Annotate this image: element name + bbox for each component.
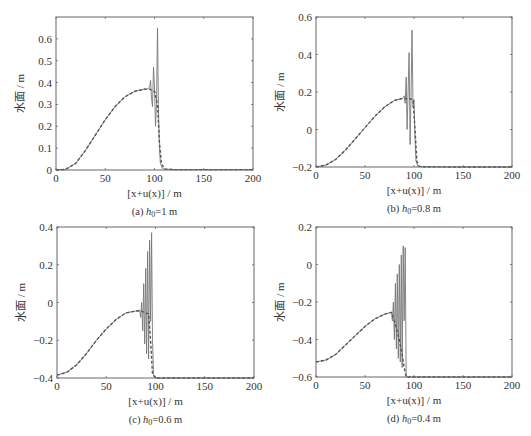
y-tick-label: −0.2: [292, 296, 312, 308]
y-tick-label: 0: [48, 297, 54, 309]
panel-caption: (c) h0=0.6 m: [129, 414, 182, 427]
y-tick-label: −0.2: [33, 334, 53, 346]
x-axis-title: [x+u(x)] / m: [128, 395, 183, 408]
y-tick-label: 0.3: [38, 98, 52, 110]
plot-frame: [316, 17, 512, 167]
chart-panel-c: 050100150200−0.4−0.200.20.4水面 / m[x+u(x)…: [15, 221, 263, 427]
y-tick-label: 0.1: [38, 142, 52, 154]
x-tick-label: 100: [147, 380, 164, 392]
chart-panel-d: 050100150200−0.6−0.4−0.200.2水面 / m[x+u(x…: [274, 221, 521, 426]
solid-series-line: [57, 233, 254, 378]
y-tick-label: 0: [47, 164, 53, 176]
y-tick-label: 0.2: [298, 86, 312, 98]
y-tick-label: 0.4: [38, 77, 52, 89]
plot-frame: [316, 227, 512, 377]
x-tick-label: 100: [406, 169, 423, 181]
y-axis-title: 水面 / m: [274, 72, 286, 112]
y-tick-label: 0.6: [298, 11, 312, 23]
x-tick-label: 200: [504, 169, 521, 181]
x-tick-label: 50: [360, 379, 372, 391]
y-axis-title: 水面 / m: [14, 74, 26, 114]
x-tick-label: 150: [455, 169, 472, 181]
x-tick-label: 150: [455, 379, 472, 391]
x-tick-label: 150: [197, 380, 214, 392]
y-tick-label: −0.4: [292, 334, 312, 346]
x-tick-label: 50: [360, 169, 372, 181]
y-tick-label: −0.4: [33, 372, 53, 384]
y-tick-label: 0.4: [39, 221, 53, 233]
x-tick-label: 200: [245, 172, 262, 184]
solid-series-line: [56, 28, 253, 170]
panel-caption: (a) h0=1 m: [132, 206, 178, 219]
x-tick-label: 200: [246, 380, 263, 392]
dashed-series-line: [57, 311, 254, 378]
solid-series-line: [316, 246, 512, 377]
chart-panel-a: 05010015020000.10.20.30.40.50.6水面 / m[x+…: [14, 17, 262, 219]
y-tick-label: 0.2: [298, 221, 312, 233]
x-tick-label: 0: [53, 172, 59, 184]
panel-caption: (b) h0=0.8 m: [387, 203, 441, 216]
plot-frame: [57, 227, 254, 378]
y-tick-label: 0: [307, 124, 313, 136]
x-tick-label: 0: [313, 169, 319, 181]
y-tick-label: 0.6: [38, 33, 52, 45]
y-tick-label: −0.2: [292, 161, 312, 173]
figure: 05010015020000.10.20.30.40.50.6水面 / m[x+…: [0, 0, 531, 436]
x-axis-title: [x+u(x)] / m: [127, 187, 182, 200]
x-tick-label: 150: [196, 172, 213, 184]
x-tick-label: 50: [100, 172, 112, 184]
y-tick-label: 0.2: [38, 120, 52, 132]
panel-caption: (d) h0=0.4 m: [387, 413, 441, 426]
y-tick-label: 0.4: [298, 49, 312, 61]
y-tick-label: 0.2: [39, 259, 53, 271]
solid-series-line: [316, 30, 512, 167]
y-tick-label: −0.6: [292, 371, 312, 383]
x-tick-label: 0: [313, 379, 319, 391]
x-tick-label: 200: [504, 379, 521, 391]
x-axis-title: [x+u(x)] / m: [387, 394, 442, 407]
y-tick-label: 0: [307, 259, 313, 271]
x-tick-label: 100: [406, 379, 423, 391]
x-tick-label: 100: [146, 172, 163, 184]
chart-panel-b: 050100150200−0.200.20.40.6水面 / m[x+u(x)]…: [274, 11, 521, 216]
y-tick-label: 0.5: [38, 55, 52, 67]
dashed-series-line: [316, 312, 512, 377]
x-tick-label: 50: [101, 380, 113, 392]
x-axis-title: [x+u(x)] / m: [387, 184, 442, 197]
x-tick-label: 0: [54, 380, 60, 392]
y-axis-title: 水面 / m: [15, 283, 27, 323]
y-axis-title: 水面 / m: [274, 282, 286, 322]
